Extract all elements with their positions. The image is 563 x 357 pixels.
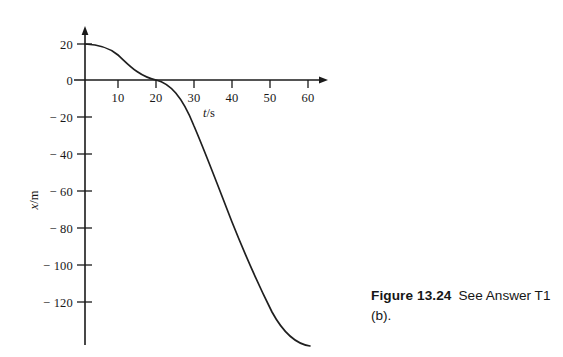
x-axis-title: t/s <box>203 106 215 120</box>
data-curve-x-of-t <box>85 44 310 346</box>
x-tick-label: 10 <box>112 91 125 105</box>
y-axis-title: x/m <box>27 190 41 210</box>
y-tick-labels: 20 0 − 20 − 40 − 60 − 80 − 100 − 120 <box>43 38 73 310</box>
y-tick-label: − 40 <box>50 148 73 162</box>
y-tick-label: 0 <box>67 74 73 88</box>
y-tick-label: − 80 <box>50 222 73 236</box>
figure-caption: Figure 13.24See Answer T1 (b). <box>371 286 557 325</box>
y-tick-label: − 60 <box>50 185 73 199</box>
x-axis-arrow-icon <box>319 77 328 84</box>
figure-caption-label: Figure 13.24 <box>371 288 452 303</box>
x-axis-unit: /s <box>207 106 215 120</box>
x-axis-ticks <box>118 80 308 88</box>
plot-figure: 10 20 30 40 50 60 20 0 − 20 − 40 − 60 − … <box>0 0 360 357</box>
figure-page: 10 20 30 40 50 60 20 0 − 20 − 40 − 60 − … <box>0 0 563 357</box>
y-tick-label: − 20 <box>50 111 73 125</box>
x-tick-labels: 10 20 30 40 50 60 <box>112 91 315 105</box>
y-axis-arrow-icon <box>82 26 89 35</box>
x-tick-label: 60 <box>302 91 315 105</box>
y-tick-label: 20 <box>60 38 73 52</box>
y-axis-unit: /m <box>27 190 41 203</box>
x-tick-label: 50 <box>264 91 277 105</box>
x-tick-label: 40 <box>226 91 239 105</box>
position-time-graph: 10 20 30 40 50 60 20 0 − 20 − 40 − 60 − … <box>0 0 360 357</box>
y-tick-label: − 120 <box>43 296 73 310</box>
x-tick-label: 30 <box>188 91 201 105</box>
x-tick-label: 20 <box>150 91 163 105</box>
y-tick-label: − 100 <box>43 259 73 273</box>
